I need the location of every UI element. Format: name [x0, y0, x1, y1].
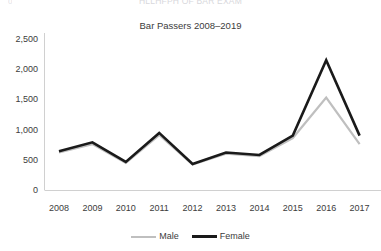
- y-tick-label: 2,500: [2, 34, 38, 44]
- legend-entry-female[interactable]: Female: [192, 231, 250, 242]
- x-tick-label: 2011: [142, 203, 176, 214]
- y-tick-label: 500: [2, 155, 38, 165]
- y-tick-label: 0: [2, 185, 38, 195]
- x-tick-label: 2013: [209, 203, 243, 214]
- bar-passers-chart: 0 HLLHFPH OF BAR EXAM Bar Passers 2008–2…: [0, 0, 381, 251]
- legend-swatch-icon: [131, 236, 156, 238]
- legend-label: Male: [159, 231, 179, 242]
- legend-entry-male[interactable]: Male: [131, 231, 179, 242]
- legend-label: Female: [220, 231, 250, 242]
- y-tick-label: 2,000: [2, 64, 38, 74]
- y-tick-label: 1,000: [2, 125, 38, 135]
- x-tick-label: 2014: [242, 203, 276, 214]
- x-tick-label: 2015: [276, 203, 310, 214]
- x-tick-label: 2010: [109, 203, 143, 214]
- series-line-male: [59, 98, 360, 165]
- x-tick-label: 2017: [343, 203, 377, 214]
- x-tick-label: 2009: [75, 203, 109, 214]
- y-tick-label: 1,500: [2, 94, 38, 104]
- chart-legend: MaleFemale: [0, 231, 381, 242]
- x-tick-label: 2008: [42, 203, 76, 214]
- x-tick-label: 2012: [176, 203, 210, 214]
- x-tick-label: 2016: [309, 203, 343, 214]
- legend-swatch-icon: [192, 235, 217, 238]
